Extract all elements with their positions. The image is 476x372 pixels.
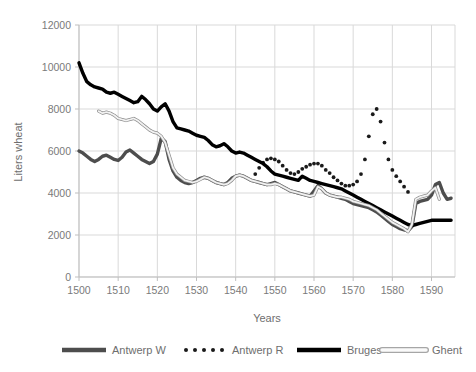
x-tick-label: 1500 [67,284,91,296]
data-point [340,182,344,186]
legend-label: Antwerp W [112,344,166,356]
data-point [394,174,398,178]
x-tick-label: 1570 [341,284,365,296]
x-tick-label: 1520 [146,284,170,296]
data-point [269,156,273,160]
data-point [363,158,367,162]
data-point [367,134,371,138]
data-point [332,175,336,179]
data-point [402,185,406,189]
data-point [296,170,300,174]
data-point [328,171,332,175]
y-tick-label: 0 [65,271,71,283]
legend-label: Antwerp R [232,344,283,356]
data-point [336,179,340,183]
data-point [371,112,375,116]
legend-label: Ghent [432,344,462,356]
data-point [304,165,308,169]
data-point [324,168,328,172]
chart-container: 020004000600080001000012000 150015101520… [0,0,476,372]
y-tick-label: 12000 [42,19,71,31]
data-point [273,158,277,162]
data-point [316,162,320,166]
x-tick-label: 1580 [381,284,405,296]
x-tick-label: 1560 [302,284,326,296]
data-point [285,168,289,172]
x-tick-label: 1550 [263,284,287,296]
y-tick-label: 10000 [42,61,71,73]
data-point [320,164,324,168]
data-point [387,158,391,162]
data-point [281,164,285,168]
y-tick-label: 2000 [48,229,72,241]
x-tick-label: 1530 [185,284,209,296]
data-point [277,160,281,164]
legend-marker-dot [220,348,224,352]
data-point [398,180,402,184]
y-axis-title: Liters wheat [12,122,24,181]
x-tick-label: 1510 [106,284,130,296]
data-point [355,180,359,184]
data-point [383,141,387,145]
data-point [293,172,297,176]
data-point [343,184,347,188]
data-point [390,168,394,172]
data-point [300,167,304,171]
y-tick-label: 8000 [48,103,72,115]
data-point [406,190,410,194]
legend-marker-dot [202,348,206,352]
legend-marker-dot [184,348,188,352]
legend-marker-dot [193,348,197,352]
data-point [375,107,379,111]
data-point [347,184,351,188]
line-chart: 020004000600080001000012000 150015101520… [0,0,476,372]
data-point [289,171,293,175]
data-point [308,163,312,167]
x-tick-label: 1590 [420,284,444,296]
data-point [257,166,261,170]
y-tick-label: 6000 [48,145,72,157]
legend-marker-dot [211,348,215,352]
x-tick-label: 1540 [224,284,248,296]
data-point [359,172,363,176]
data-point [253,172,257,176]
legend-label: Bruges [347,344,382,356]
data-point [312,162,316,166]
x-axis-title: Years [253,312,281,324]
data-point [351,183,355,187]
data-point [265,158,269,162]
data-point [379,120,383,124]
y-tick-label: 4000 [48,187,72,199]
